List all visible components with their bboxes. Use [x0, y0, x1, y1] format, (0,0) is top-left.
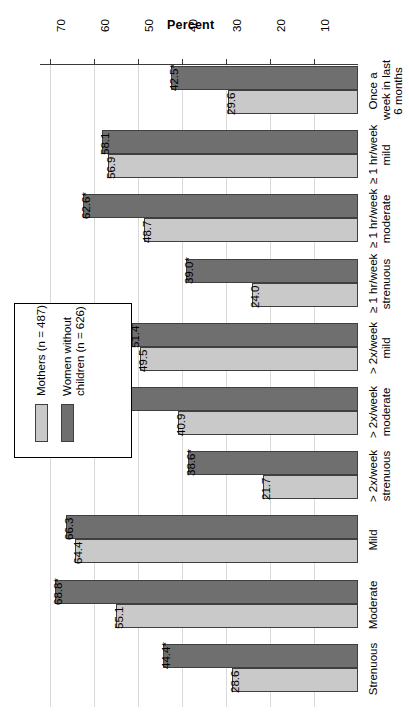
- category-label: ≥ 1 hr/week mild: [367, 126, 392, 184]
- category-label: > 2x/week moderate: [367, 383, 392, 441]
- bar: [121, 387, 358, 411]
- bar: [140, 347, 358, 371]
- legend: Mothers (n = 487)Women without children …: [14, 303, 132, 458]
- bar-value-label: 39.0*: [183, 257, 195, 284]
- bar: [186, 259, 358, 283]
- axis-tick-label: 10: [319, 19, 331, 32]
- bar: [75, 539, 358, 563]
- bar-value-label: 56.9: [105, 157, 117, 179]
- legend-swatch: [61, 404, 74, 442]
- bar-value-label: 48.7: [141, 221, 153, 243]
- category-label: Moderate: [367, 576, 380, 634]
- bar-value-label: 66.3: [63, 518, 75, 540]
- bar: [144, 218, 358, 242]
- bar: [178, 411, 358, 435]
- bar: [102, 130, 358, 154]
- category-label: ≥ 1 hr/week strenuous: [367, 255, 392, 313]
- legend-label: Women without children (n = 626): [61, 306, 87, 396]
- bar-value-label: 28.6: [229, 670, 241, 692]
- bar: [83, 194, 358, 218]
- bar: [232, 668, 358, 692]
- bar-chart: Percent 70605040302010 42.5*29.658.156.9…: [0, 0, 409, 720]
- bar-value-label: 62.6*: [80, 193, 92, 220]
- bar-value-label: 68.8*: [52, 578, 64, 605]
- axis-tick-label: 20: [275, 19, 287, 32]
- category-label: Once a week in last 6 months: [367, 62, 405, 120]
- bar: [252, 283, 358, 307]
- bar-value-label: 44.4*: [160, 642, 172, 669]
- bar-value-label: 21.7: [260, 478, 272, 500]
- bar: [66, 515, 358, 539]
- category-label: Strenuous: [367, 640, 380, 698]
- axis-tick: [50, 59, 51, 65]
- axis-tick-label: 30: [231, 19, 243, 32]
- bar-value-label: 29.6: [225, 93, 237, 115]
- bar: [163, 644, 358, 668]
- bar: [55, 580, 358, 604]
- axis-tick: [226, 59, 227, 65]
- axis-tick: [138, 59, 139, 65]
- bar-value-label: 24.0: [249, 285, 261, 307]
- legend-label: Mothers (n = 487): [35, 305, 48, 396]
- bar-value-label: 55.1: [113, 606, 125, 628]
- axis-tick: [182, 59, 183, 65]
- bar: [171, 66, 358, 90]
- value-axis-line: [40, 64, 358, 65]
- bar-value-label: 40.9: [175, 414, 187, 436]
- bar: [188, 451, 358, 475]
- category-label: > 2x/week mild: [367, 319, 392, 377]
- axis-tick-label: 50: [143, 19, 155, 32]
- bar-value-label: 49.5: [137, 349, 149, 371]
- bar-value-label: 42.5*: [168, 64, 180, 91]
- legend-swatch: [35, 404, 48, 442]
- axis-tick-label: 40: [187, 19, 199, 32]
- category-label: > 2x/week strenuous: [367, 447, 392, 505]
- axis-tick: [314, 59, 315, 65]
- bar-value-label: 38.6*: [185, 449, 197, 476]
- axis-tick: [94, 59, 95, 65]
- category-label: Mild: [367, 511, 380, 569]
- bar: [263, 475, 358, 499]
- axis-tick: [270, 59, 271, 65]
- bar: [108, 154, 358, 178]
- bar-value-label: 58.1: [99, 133, 111, 155]
- category-label: ≥ 1 hr/week moderate: [367, 190, 392, 248]
- bar-value-label: 64.4: [72, 542, 84, 564]
- axis-tick-label: 70: [55, 19, 67, 32]
- bar: [132, 323, 358, 347]
- axis-tick-label: 60: [99, 19, 111, 32]
- bar: [116, 604, 358, 628]
- bar: [228, 90, 358, 114]
